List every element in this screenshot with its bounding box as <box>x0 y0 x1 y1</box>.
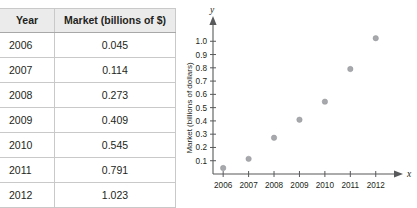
data-point <box>220 165 225 170</box>
y-axis-name: y <box>209 5 215 15</box>
cell-market: 1.023 <box>55 183 176 208</box>
cell-market: 0.273 <box>55 83 176 108</box>
cell-year: 2012 <box>0 183 55 208</box>
table-row: 2010 0.545 <box>0 133 176 158</box>
column-header-market: Market (billions of $) <box>55 9 176 33</box>
data-point <box>246 156 251 161</box>
column-header-year: Year <box>0 9 55 33</box>
cell-year: 2010 <box>0 133 55 158</box>
y-tick-label: 0.4 <box>196 117 208 126</box>
market-data-table: Year Market (billions of $) 2006 0.045 2… <box>0 8 176 208</box>
table-row: 2006 0.045 <box>0 33 176 58</box>
cell-market: 0.545 <box>55 133 176 158</box>
x-tick-label: 2007 <box>239 181 258 190</box>
y-tick-label: 0.7 <box>196 77 208 86</box>
y-axis-title: Market (billions of dollars) <box>185 62 194 153</box>
table-body: 2006 0.045 2007 0.114 2008 0.273 2009 0.… <box>0 33 176 208</box>
x-axis-arrow-icon <box>394 170 403 177</box>
data-point <box>348 66 353 71</box>
x-axis-name: x <box>406 169 412 179</box>
table-row: 2008 0.273 <box>0 83 176 108</box>
cell-market: 0.114 <box>55 58 176 83</box>
x-tick-label: 2008 <box>265 181 284 190</box>
scatter-plot-svg: Market (billions of dollars) y x 0.10.20… <box>183 0 417 208</box>
x-tick-label: 2009 <box>290 181 309 190</box>
data-point <box>373 36 378 41</box>
table-row: 2011 0.791 <box>0 158 176 183</box>
cell-year: 2009 <box>0 108 55 133</box>
cell-year: 2007 <box>0 58 55 83</box>
y-tick-label: 0.3 <box>196 130 208 139</box>
table-header: Year Market (billions of $) <box>0 9 176 33</box>
data-point <box>297 117 302 122</box>
table-header-row: Year Market (billions of $) <box>0 9 176 33</box>
y-axis-arrow-icon <box>209 16 216 25</box>
y-tick-label: 0.8 <box>196 64 208 73</box>
x-tick-label: 2012 <box>367 181 386 190</box>
y-tick-label: 0.9 <box>196 51 208 60</box>
table-row: 2009 0.409 <box>0 108 176 133</box>
cell-year: 2006 <box>0 33 55 58</box>
data-table-panel: Year Market (billions of $) 2006 0.045 2… <box>0 8 175 208</box>
y-tick-label: 1.0 <box>196 37 208 46</box>
y-tick-label: 0.2 <box>196 143 208 152</box>
x-tick-label: 2010 <box>316 181 335 190</box>
x-tick-label: 2006 <box>214 181 233 190</box>
cell-market: 0.045 <box>55 33 176 58</box>
y-tick-label: 0.6 <box>196 90 208 99</box>
cell-year: 2008 <box>0 83 55 108</box>
table-row: 2012 1.023 <box>0 183 176 208</box>
figure-caption-partial <box>243 198 363 208</box>
cell-year: 2011 <box>0 158 55 183</box>
data-point <box>322 99 327 104</box>
y-tick-label: 0.5 <box>196 104 208 113</box>
y-tick-label: 0.1 <box>196 157 208 166</box>
table-row: 2007 0.114 <box>0 58 176 83</box>
cell-market: 0.791 <box>55 158 176 183</box>
data-point <box>271 135 276 140</box>
scatter-plot-panel: Market (billions of dollars) y x 0.10.20… <box>183 0 417 208</box>
data-points-group <box>220 36 378 171</box>
cell-market: 0.409 <box>55 108 176 133</box>
x-tick-label: 2011 <box>342 181 360 190</box>
